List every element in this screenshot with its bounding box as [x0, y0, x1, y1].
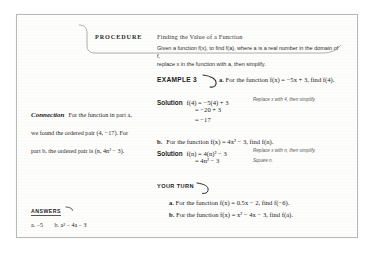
- swoosh-icon: [195, 181, 213, 195]
- solution-a-annotation-1: Replace x with 4, then simplify.: [253, 95, 316, 105]
- procedure-label: PROCEDURE: [95, 33, 142, 40]
- procedure-body-line-2: replace x in the function with a, then s…: [157, 61, 266, 67]
- scanned-page-canvas: PROCEDURE Finding the Value of a Functio…: [0, 0, 372, 253]
- your-turn-label: YOUR TURN: [157, 183, 194, 189]
- answers-label: ANSWERS: [31, 208, 61, 216]
- answers-block: ANSWERS a. −5 b. a² − 4a − 3: [31, 199, 151, 228]
- your-turn-item-a-text: For the function f(x) = 0.5x − 2, find f…: [176, 199, 290, 206]
- example-part-b-row: b. For the function f(x) = 4x² − 3, find…: [157, 134, 358, 144]
- solution-b-line-1: Solution f(n) = 4(n)² − 3 Replace x with…: [157, 146, 358, 156]
- solution-a-line-2: = −20 + 3: [157, 105, 358, 115]
- solution-b-block: Solution f(n) = 4(n)² − 3 Replace x with…: [157, 146, 358, 166]
- your-turn-heading-row: YOUR TURN: [157, 183, 357, 195]
- procedure-body: Given a function f(x), to find f(a), whe…: [157, 44, 341, 69]
- connection-title: Connection: [31, 111, 64, 119]
- connection-sidebar: Connection For the function in part a, w…: [31, 103, 139, 157]
- textbook-page-sheet: PROCEDURE Finding the Value of a Functio…: [16, 14, 358, 238]
- solution-a-expression-3: = −17: [195, 115, 211, 125]
- example-part-a-text: For the function f(x) = −5x + 3, find f(…: [226, 76, 335, 83]
- solution-a-line-1: Solution f(4) = −5(4) + 3 Replace x with…: [157, 95, 358, 105]
- solution-a-expression-2: = −20 + 3: [195, 105, 221, 115]
- solution-b-annotation-2: Square n.: [253, 156, 273, 166]
- your-turn-item-b-text: For the function f(x) = x² − 4x − 3, fin…: [176, 211, 293, 218]
- your-turn-item-a-letter: a.: [169, 199, 174, 206]
- example-part-a: a. For the function f(x) = −5x + 3, find…: [219, 76, 334, 83]
- your-turn-item-b: b. For the function f(x) = x² − 4x − 3, …: [169, 211, 293, 218]
- your-turn-item-b-letter: b.: [169, 211, 174, 218]
- answers-values: a. −5 b. a² − 4a − 3: [31, 222, 151, 228]
- solution-b-annotation-1: Replace x with n, then simplify.: [253, 146, 316, 156]
- your-turn-item-a: a. For the function f(x) = 0.5x − 2, fin…: [169, 199, 289, 206]
- example-heading-row: EXAMPLE 3 a. For the function f(x) = −5x…: [157, 75, 357, 89]
- example-part-b: b. For the function f(x) = 4x² − 3, find…: [157, 134, 358, 144]
- solution-b-expression-2: = 4n² − 3: [195, 156, 219, 166]
- swoosh-icon: [201, 73, 221, 89]
- solution-b-line-2: = 4n² − 3 Square n.: [157, 156, 358, 166]
- example-part-b-letter: b.: [157, 138, 162, 145]
- answer-a: a. −5: [31, 222, 43, 228]
- swoosh-icon: [65, 206, 75, 212]
- solution-a-block: Solution f(4) = −5(4) + 3 Replace x with…: [157, 95, 358, 125]
- solution-a-line-3: = −17: [157, 115, 358, 125]
- procedure-title: Finding the Value of a Function: [157, 33, 243, 40]
- answer-b: b. a² − 4a − 3: [55, 222, 87, 228]
- example-label: EXAMPLE 3: [157, 76, 197, 83]
- example-part-a-letter: a.: [219, 76, 224, 83]
- procedure-body-line-1: Given a function f(x), to find f(a), whe…: [157, 45, 338, 59]
